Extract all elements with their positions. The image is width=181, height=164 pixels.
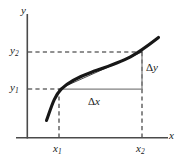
y-axis-label: y bbox=[21, 5, 26, 16]
x-axis-label: x bbox=[169, 130, 174, 141]
delta-x-label: Δx bbox=[88, 96, 100, 107]
x1-tick-label: x1 bbox=[53, 143, 62, 154]
x1-subscript: 1 bbox=[58, 147, 62, 156]
figure-canvas bbox=[0, 0, 181, 164]
y1-tick-label: y1 bbox=[10, 82, 19, 93]
delta-x-base: x bbox=[95, 95, 100, 107]
y2-tick-label: y2 bbox=[10, 45, 19, 56]
x2-subscript: 2 bbox=[141, 147, 145, 156]
y1-subscript: 1 bbox=[15, 86, 19, 95]
x2-tick-label: x2 bbox=[136, 143, 145, 154]
y2-subscript: 2 bbox=[15, 49, 19, 58]
delta-y-base: y bbox=[153, 61, 158, 73]
delta-y-label: Δy bbox=[146, 62, 158, 73]
secant-slope-figure: y x y2 y1 x1 x2 Δy Δx bbox=[0, 0, 181, 164]
